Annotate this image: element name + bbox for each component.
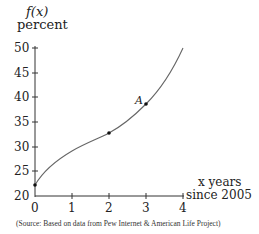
y-tick-label: 40 <box>14 90 29 104</box>
y-tick-label: 20 <box>14 189 29 203</box>
data-point-x2 <box>107 131 111 135</box>
y-tick-label: 30 <box>14 140 29 154</box>
y-tick-label: 50 <box>14 41 29 55</box>
x-tick-label: 3 <box>142 201 150 215</box>
source-note: (Source: Based on data from Pew Internet… <box>16 219 221 228</box>
x-tick-label: 0 <box>31 201 39 215</box>
x-axis-label-line1: x years <box>198 175 242 189</box>
y-tick-label: 25 <box>14 164 29 178</box>
data-point-x0 <box>33 183 37 187</box>
x-tick-label: 1 <box>68 201 76 215</box>
point-a-label: A <box>135 94 143 107</box>
function-curve <box>35 48 183 185</box>
data-point-a <box>144 102 148 106</box>
y-tick-label: 45 <box>14 66 29 80</box>
x-tick-label: 2 <box>105 201 113 215</box>
x-tick-label: 4 <box>179 201 187 215</box>
x-axis-label-line2: since 2005 <box>186 188 252 202</box>
y-tick-label: 35 <box>14 115 29 129</box>
